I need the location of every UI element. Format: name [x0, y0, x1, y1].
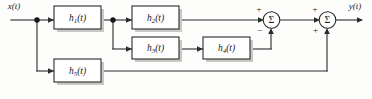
block-h2-label: h2(t) [147, 13, 164, 24]
summer-1-left-sign: + [256, 4, 261, 14]
arrowhead-h1-input [48, 17, 54, 23]
summer-2-glyph: Σ [325, 14, 331, 25]
output-signal-label: y(t) [348, 1, 362, 11]
arrowhead-h5-input [48, 68, 54, 74]
summer-1-glyph: Σ [269, 14, 275, 25]
block-h4-label: h4(t) [218, 43, 235, 54]
arrowhead-output [357, 17, 363, 23]
arrowhead-sum2-bottom [324, 28, 330, 34]
block-h5-label: h5(t) [69, 66, 86, 77]
junction-dot-after-h1 [110, 17, 115, 22]
input-signal-label: x(t) [7, 1, 21, 11]
summer-2-left-sign: + [312, 4, 317, 14]
arrowhead-h4-input [197, 46, 203, 52]
arrowhead-h3-input [126, 46, 132, 52]
arrowhead-h2-input [126, 17, 132, 23]
summer-2-bottom-sign: + [313, 25, 318, 35]
arrowhead-sum1-bottom [268, 28, 274, 34]
summer-1-bottom-sign: − [257, 25, 262, 35]
block-h1-label: h1(t) [69, 13, 86, 24]
block-h3-label: h3(t) [147, 43, 164, 54]
junction-dot-input [34, 17, 39, 22]
block-diagram: h1(t) h2(t) h3(t) h4(t) h5(t) Σ + − [0, 0, 372, 99]
block-diagram-canvas: h1(t) h2(t) h3(t) h4(t) h5(t) Σ + − [0, 0, 372, 99]
